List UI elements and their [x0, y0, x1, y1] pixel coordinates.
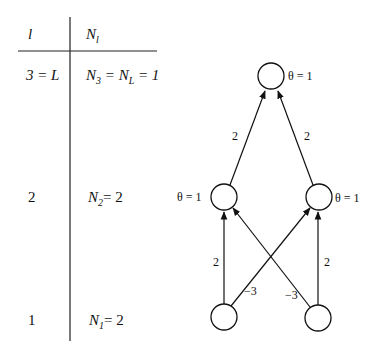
header-layer: l — [28, 27, 32, 42]
node-hidden-right — [306, 184, 332, 210]
node-hidden-left — [211, 184, 237, 210]
count-sub: 1 — [99, 320, 104, 331]
count-value: = 2 — [104, 312, 124, 328]
count-value: = 2 — [103, 189, 123, 205]
count-sub: 2 — [98, 197, 103, 208]
diagram-canvas — [0, 0, 378, 354]
header-count-sub: l — [96, 34, 99, 45]
count-sub: 3 — [96, 75, 101, 86]
row-count-3: N3 = NL = 1 — [86, 68, 159, 83]
node-output — [258, 63, 284, 89]
count-symbol: N — [89, 312, 99, 328]
count-symbol: N — [88, 189, 98, 205]
weight-hr-out: 2 — [304, 130, 310, 142]
count-symbol: N — [86, 67, 96, 83]
threshold-output: θ = 1 — [288, 70, 313, 82]
row-layer-3: 3 = L — [26, 68, 59, 83]
header-count: Nl — [86, 27, 99, 42]
node-input-left — [211, 304, 237, 330]
row-count-1: N1= 2 — [89, 313, 124, 328]
weight-il-hr: −3 — [244, 285, 257, 297]
count-sub-l: L — [129, 75, 135, 86]
threshold-hidden-left: θ = 1 — [177, 191, 202, 203]
header-count-symbol: N — [86, 26, 96, 42]
row-layer-1: 1 — [28, 313, 36, 328]
count-eq: = N — [101, 67, 129, 83]
row-layer-2: 2 — [28, 190, 36, 205]
node-input-right — [305, 305, 331, 331]
weight-ir-hl: −3 — [285, 289, 298, 301]
count-value: = 1 — [134, 67, 159, 83]
weight-hl-out: 2 — [232, 130, 238, 142]
weight-ir-hr: 2 — [324, 256, 330, 268]
threshold-hidden-right: θ = 1 — [335, 192, 360, 204]
row-count-2: N2= 2 — [88, 190, 123, 205]
weight-il-hl: 2 — [213, 256, 219, 268]
